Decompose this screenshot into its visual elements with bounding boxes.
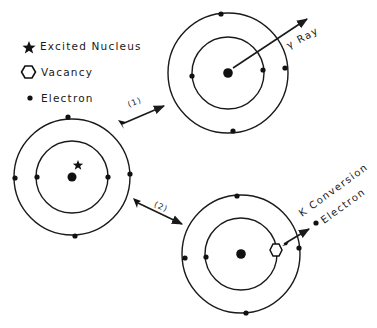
transition-arrow-1: (1) [118, 95, 164, 129]
legend-label-electron: Electron [41, 92, 94, 104]
electron [72, 233, 77, 238]
electron [189, 73, 194, 78]
atom-internal-conversion: K Conversion Electron [182, 161, 370, 315]
nucleus [223, 68, 233, 78]
electron [12, 175, 17, 180]
electron [218, 11, 223, 16]
excited-star-icon [73, 160, 83, 170]
electron [65, 114, 70, 119]
legend-item-excited-nucleus: Excited Nucleus [22, 40, 141, 53]
electron [182, 255, 187, 260]
arrow-fletching [282, 241, 289, 246]
star-icon [22, 41, 35, 53]
atom-initial [12, 114, 132, 238]
legend-label-excited-nucleus: Excited Nucleus [40, 40, 142, 52]
internal-conversion-diagram: Excited Nucleus Vacancy Electron (1) (2) [0, 0, 377, 328]
vacancy-hexagon-icon [270, 244, 282, 256]
legend-item-vacancy: Vacancy [22, 66, 94, 78]
conversion-electron [313, 220, 318, 225]
electron [34, 174, 39, 179]
electron [203, 254, 208, 259]
legend-item-electron: Electron [27, 92, 93, 104]
electron [230, 128, 235, 133]
nucleus [236, 249, 246, 259]
gamma-ray-label: γ Ray [285, 25, 321, 51]
electron [260, 67, 265, 72]
electron [127, 171, 132, 176]
legend: Excited Nucleus Vacancy Electron [22, 40, 142, 104]
hexagon-icon [22, 66, 36, 78]
conversion-electron-arrow [284, 229, 309, 244]
electron [243, 310, 248, 315]
nucleus [68, 173, 77, 182]
arrow-label-1: (1) [126, 95, 143, 109]
electron [234, 193, 239, 198]
dot-icon [27, 95, 32, 100]
electron [296, 245, 301, 250]
atom-gamma-emission: γ Ray [168, 11, 320, 133]
transition-arrow-2: (2) [133, 198, 182, 224]
legend-label-vacancy: Vacancy [41, 66, 93, 78]
electron [282, 65, 287, 70]
arrow-fletching [118, 120, 126, 129]
electron [105, 174, 110, 179]
